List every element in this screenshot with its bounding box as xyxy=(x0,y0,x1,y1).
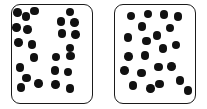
dot xyxy=(22,12,31,21)
dot xyxy=(51,80,60,89)
dot xyxy=(57,17,66,26)
dot xyxy=(176,76,185,85)
dot xyxy=(14,38,23,47)
dot xyxy=(124,52,133,61)
dot xyxy=(184,86,193,95)
dot-comparison-stimulus xyxy=(0,0,207,109)
dot xyxy=(155,80,164,89)
dot xyxy=(129,81,138,90)
dot xyxy=(141,51,150,60)
dot xyxy=(159,44,168,53)
dot xyxy=(174,12,183,21)
dot xyxy=(120,66,129,75)
dot xyxy=(58,29,67,38)
dot xyxy=(142,37,151,46)
dot xyxy=(154,63,163,72)
dot xyxy=(71,30,80,39)
dot xyxy=(138,22,147,31)
dot xyxy=(30,53,39,62)
dot xyxy=(22,74,31,83)
dot xyxy=(137,69,146,78)
dot xyxy=(70,18,79,27)
dot xyxy=(66,84,75,93)
dot xyxy=(16,63,25,72)
dot xyxy=(167,62,176,71)
dot xyxy=(146,84,155,93)
dot xyxy=(23,25,32,34)
dot xyxy=(66,52,75,61)
dot xyxy=(12,23,21,32)
dot xyxy=(51,66,60,75)
dot xyxy=(13,8,22,17)
dot xyxy=(160,10,169,19)
dot xyxy=(17,83,26,92)
dot xyxy=(124,33,133,42)
dot xyxy=(153,31,162,40)
dot xyxy=(28,40,37,49)
dot xyxy=(34,79,43,88)
dot xyxy=(30,7,39,16)
